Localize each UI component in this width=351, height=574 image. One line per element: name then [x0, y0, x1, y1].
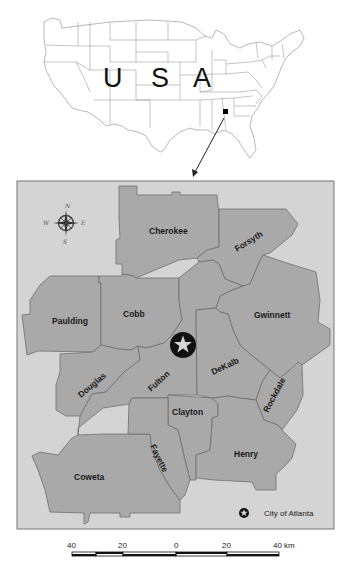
county-label-henry: Henry	[234, 449, 258, 459]
scale-tick-label-1: 20	[118, 541, 127, 550]
legend-star-icon	[239, 508, 249, 518]
county-label-paulding: Paulding	[52, 316, 88, 326]
county-label-clayton: Clayton	[172, 407, 203, 417]
figure: U S A Cherokee Forsyth Paulding Cobb Gwi…	[0, 0, 351, 574]
scale-tick-label-3: 20	[222, 541, 231, 550]
locator-square-icon	[223, 109, 228, 114]
county-label-gwinnett: Gwinnett	[254, 310, 291, 320]
legend-label: City of Atlanta	[264, 509, 314, 518]
usa-outline	[44, 18, 304, 158]
county-label-cherokee: Cherokee	[149, 226, 188, 236]
compass-south-label: S	[63, 238, 67, 245]
usa-letter-s: S	[151, 63, 169, 93]
usa-letter-u: U	[103, 63, 123, 93]
county-label-cobb: Cobb	[123, 309, 145, 319]
atlanta-metro-map: Cherokee Forsyth Paulding Cobb Gwinnett …	[17, 181, 334, 529]
atlanta-star-icon[interactable]	[170, 332, 196, 358]
compass-west-label: W	[43, 219, 50, 226]
usa-letter-a: A	[193, 63, 211, 93]
scale-tick-label-4: 40 km	[273, 541, 295, 550]
county-label-coweta: Coweta	[74, 472, 105, 482]
arrow-head-icon	[192, 169, 198, 177]
scale-tick-label-2: 0	[174, 541, 179, 550]
compass-east-label: E	[80, 219, 86, 226]
scale-bar: 40 20 0 20 40 km	[67, 541, 295, 556]
compass-north-label: N	[64, 202, 71, 209]
usa-inset-map: U S A	[44, 18, 304, 177]
scale-tick-label-0: 40	[67, 541, 76, 550]
